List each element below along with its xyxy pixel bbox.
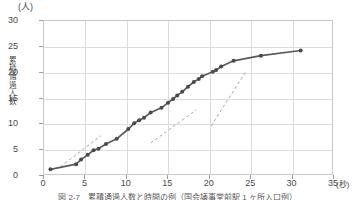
data-point-marker [137, 118, 141, 122]
data-point-marker [48, 167, 52, 171]
y-tick-label: 30 [0, 15, 18, 25]
data-point-marker [166, 101, 170, 105]
figure-caption: 図 2-7 累積通過人数と時間の例（国会議事堂前駅 1 ヶ所入口例） [0, 192, 355, 200]
data-point-marker [104, 142, 108, 146]
y-tick-label: 10 [0, 118, 18, 128]
y-tick-mark [39, 46, 43, 47]
data-point-marker [200, 74, 204, 78]
x-axis-unit-label: (秒) [336, 178, 349, 189]
trend-segment-2 [151, 110, 197, 143]
y-tick-label: 0 [0, 170, 18, 180]
data-point-marker [186, 85, 190, 89]
data-point-marker [86, 153, 90, 157]
data-point-marker [299, 48, 303, 52]
data-point-marker [159, 106, 163, 110]
data-point-marker [197, 77, 201, 81]
data-point-marker [219, 65, 223, 69]
y-tick-mark [39, 149, 43, 150]
x-tick-label: 15 [152, 178, 182, 188]
data-point-marker [192, 80, 196, 84]
data-point-marker [132, 121, 136, 125]
data-point-marker [214, 68, 218, 72]
x-tick-label: 25 [235, 178, 265, 188]
data-point-marker [259, 54, 263, 58]
data-point-marker [74, 162, 78, 166]
y-tick-mark [39, 72, 43, 73]
data-point-marker [97, 147, 101, 151]
data-point-marker [92, 148, 96, 152]
series-line [50, 50, 300, 169]
y-tick-label: 15 [0, 93, 18, 103]
data-point-marker [180, 90, 184, 94]
y-tick-mark [39, 20, 43, 21]
y-tick-mark [39, 123, 43, 124]
data-point-marker [171, 97, 175, 101]
y-tick-label: 25 [0, 41, 18, 51]
chart-figure: (人) 累 積 通 過 人 数 051015202530350510152025… [0, 0, 355, 200]
x-tick-label: 30 [277, 178, 307, 188]
x-tick-label: 10 [111, 178, 141, 188]
chart-overlay [0, 0, 355, 200]
data-point-marker [115, 137, 119, 141]
x-tick-label: 20 [194, 178, 224, 188]
data-point-marker [149, 110, 153, 114]
y-tick-mark [39, 175, 43, 176]
data-point-marker [142, 116, 146, 120]
y-tick-label: 20 [0, 67, 18, 77]
x-tick-label: 5 [69, 178, 99, 188]
y-tick-label: 5 [0, 144, 18, 154]
x-tick-label: 0 [28, 178, 58, 188]
data-point-marker [126, 127, 130, 131]
data-point-marker [175, 93, 179, 97]
y-tick-mark [39, 98, 43, 99]
data-point-marker [79, 158, 83, 162]
trend-segment-3 [211, 70, 247, 126]
data-point-marker [232, 59, 236, 63]
